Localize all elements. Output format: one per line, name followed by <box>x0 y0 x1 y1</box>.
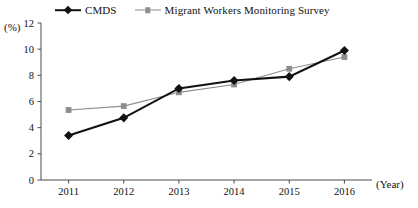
x-axis-tick-label: 2013 <box>168 186 189 197</box>
y-axis-tick-label: 2 <box>29 148 34 159</box>
data-series-layer <box>64 46 349 140</box>
series-line <box>69 50 345 135</box>
y-axis-tick-label: 8 <box>29 70 34 81</box>
chart-plot-area: 024681012 201120122013201420152016 <box>0 0 418 208</box>
x-axis-tick-label: 2015 <box>279 186 300 197</box>
data-point-diamond-icon <box>119 113 128 122</box>
series-cmds <box>64 46 349 140</box>
data-point-square-icon <box>66 107 72 113</box>
chart-container: CMDS Migrant Workers Monitoring Survey (… <box>0 0 418 208</box>
x-axis-tick-label: 2016 <box>334 186 355 197</box>
y-axis-tick-label: 6 <box>29 96 34 107</box>
data-point-square-icon <box>121 103 127 109</box>
data-point-diamond-icon <box>340 46 349 55</box>
y-axis: 024681012 <box>24 18 42 186</box>
y-axis-tick-label: 4 <box>29 122 35 133</box>
data-point-diamond-icon <box>285 72 294 81</box>
data-point-diamond-icon <box>64 131 73 140</box>
y-axis-tick-label: 12 <box>24 18 35 29</box>
x-axis: 201120122013201420152016 <box>41 180 372 197</box>
x-axis-tick-label: 2011 <box>58 186 79 197</box>
x-axis-tick-label: 2012 <box>113 186 134 197</box>
x-axis-tick-label: 2014 <box>224 186 246 197</box>
y-axis-tick-label: 0 <box>29 175 34 186</box>
y-axis-tick-label: 10 <box>24 44 35 55</box>
data-point-square-icon <box>286 66 292 72</box>
